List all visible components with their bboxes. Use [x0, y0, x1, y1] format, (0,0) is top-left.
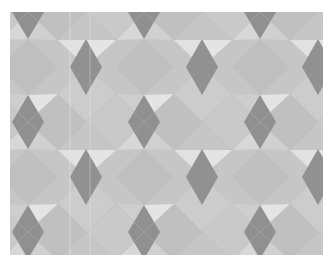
tessellation-pattern [10, 12, 323, 255]
tessellation-image [10, 12, 323, 255]
